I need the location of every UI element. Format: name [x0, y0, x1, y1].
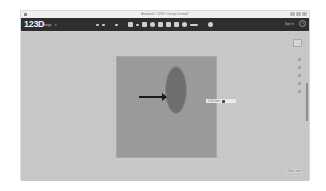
- arrow-annotation: [139, 96, 163, 98]
- material-icon[interactable]: [208, 22, 213, 27]
- pan-icon[interactable]: [298, 58, 301, 61]
- grouping-icon[interactable]: [166, 22, 171, 27]
- window-controls: – □ ×: [290, 12, 307, 16]
- window-title: Autodesk® 123D® Design Untitled*: [21, 11, 309, 18]
- modify-icon[interactable]: [150, 22, 155, 27]
- title-bar: Autodesk® 123D® Design Untitled* – □ ×: [21, 11, 309, 18]
- construct-icon[interactable]: [142, 22, 147, 27]
- text-icon[interactable]: [190, 24, 198, 26]
- tool-group: [96, 21, 216, 28]
- viewport-canvas[interactable]: 0.00 mm Units: mm: [21, 31, 309, 181]
- viewcube[interactable]: [293, 39, 302, 47]
- sketch-plane[interactable]: [116, 56, 217, 158]
- minimize-button[interactable]: –: [290, 12, 295, 16]
- ellipse-shape[interactable]: [165, 66, 187, 114]
- units-label: Units: mm: [287, 169, 303, 173]
- combine-icon[interactable]: [174, 22, 179, 27]
- vertical-scrollbar[interactable]: [306, 83, 308, 121]
- maximize-button[interactable]: □: [296, 12, 301, 16]
- undo-icon[interactable]: [96, 24, 99, 26]
- app-window: Autodesk® 123D® Design Untitled* – □ × 1…: [20, 10, 310, 180]
- sign-in-link[interactable]: Sign In: [285, 22, 294, 27]
- fit-icon[interactable]: [298, 82, 301, 85]
- app-logo-sub: Design: [42, 21, 51, 29]
- close-button[interactable]: ×: [302, 12, 307, 16]
- main-toolbar: 123D Design ▾ Sign In ?: [21, 18, 309, 31]
- app-menu-chevron-icon[interactable]: ▾: [55, 21, 57, 29]
- pattern-icon[interactable]: [158, 22, 163, 27]
- help-icon[interactable]: ?: [299, 20, 306, 27]
- measure-icon[interactable]: [182, 22, 187, 27]
- redo-icon[interactable]: [102, 24, 105, 26]
- dimension-value[interactable]: 0.00 mm: [206, 99, 220, 103]
- transform-icon[interactable]: [115, 24, 118, 26]
- view-mode-icon[interactable]: [298, 90, 301, 93]
- primitives-icon[interactable]: [128, 22, 133, 27]
- navigation-bar: [298, 58, 301, 93]
- dimension-handle-icon[interactable]: [222, 100, 225, 103]
- dimension-input[interactable]: 0.00 mm: [206, 99, 236, 103]
- sketch-icon[interactable]: [136, 24, 139, 26]
- zoom-icon[interactable]: [298, 74, 301, 77]
- orbit-icon[interactable]: [298, 66, 301, 69]
